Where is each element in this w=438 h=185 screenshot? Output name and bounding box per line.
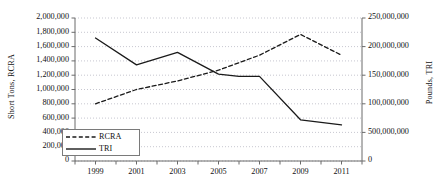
legend-label-rcra: RCRA [99, 131, 121, 143]
legend-label-tri: TRI [99, 143, 112, 155]
plot-area [0, 0, 438, 185]
series-line-tri [96, 38, 342, 125]
series-line-rcra [96, 34, 342, 103]
legend-swatch-solid-icon [66, 148, 96, 150]
legend-item-rcra: RCRA [66, 131, 138, 143]
dual-axis-line-chart: Short Tons, RCRA Pounds, TRI 0200,000400… [0, 0, 438, 185]
data-series-layer [96, 34, 342, 125]
legend-swatch-dashed-icon [66, 136, 96, 138]
legend-item-tri: TRI [66, 143, 138, 155]
legend: RCRA TRI [62, 129, 140, 156]
